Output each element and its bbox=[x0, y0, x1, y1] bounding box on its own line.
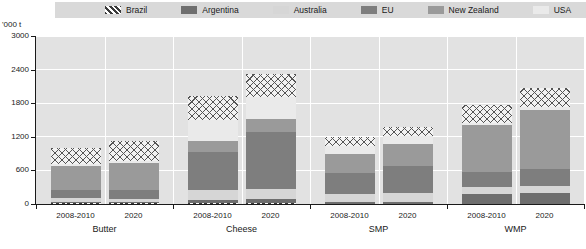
legend-item-new-zealand: New Zealand bbox=[428, 6, 499, 15]
group-divider bbox=[447, 36, 448, 204]
x-axis-category-label: 2008-2010 bbox=[183, 211, 243, 220]
bar-segment-new-zealand bbox=[520, 110, 570, 169]
bar-gap-gridline bbox=[242, 36, 243, 204]
bar-segment-new-zealand bbox=[109, 163, 159, 190]
chart-legend: Brazil Argentina Australia EU New Zealan… bbox=[55, 2, 586, 18]
bar-cheese-2020[interactable] bbox=[246, 36, 296, 204]
bar-segment-usa bbox=[462, 123, 512, 125]
y-axis-tick bbox=[31, 36, 35, 37]
group-divider bbox=[173, 36, 174, 204]
australia-swatch-icon bbox=[273, 6, 289, 14]
legend-item-eu: EU bbox=[361, 6, 394, 15]
bar-segment-new-zealand bbox=[51, 166, 101, 190]
bar-smp-2008-2010[interactable] bbox=[325, 36, 375, 204]
y-axis-tick bbox=[31, 170, 35, 171]
bar-segment-rest-of-world bbox=[520, 88, 570, 107]
bar-segment-argentina bbox=[520, 193, 570, 204]
bar-wmp-2008-2010[interactable] bbox=[462, 36, 512, 204]
bar-segment-rest-of-world bbox=[51, 148, 101, 164]
argentina-swatch-icon bbox=[181, 6, 197, 14]
x-axis-group-tick bbox=[36, 204, 37, 209]
legend-label-brazil: Brazil bbox=[126, 6, 147, 15]
legend-label-australia: Australia bbox=[294, 6, 327, 15]
bar-segment-usa bbox=[109, 161, 159, 163]
legend-item-argentina: Argentina bbox=[181, 6, 238, 15]
bar-gap-gridline bbox=[516, 36, 517, 204]
bar-segment-new-zealand bbox=[246, 119, 296, 132]
new-zealand-swatch-icon bbox=[428, 6, 444, 14]
x-axis-category-label: 2020 bbox=[378, 211, 438, 220]
bar-segment-usa bbox=[520, 107, 570, 110]
y-axis-tick bbox=[31, 137, 35, 138]
legend-label-usa: USA bbox=[554, 6, 571, 15]
bar-segment-eu bbox=[51, 190, 101, 198]
bar-segment-usa bbox=[383, 136, 433, 144]
y-axis-label: 2400 bbox=[0, 65, 29, 74]
bar-segment-rest-of-world bbox=[188, 96, 238, 120]
bar-segment-australia bbox=[520, 186, 570, 193]
x-axis-group-label: SMP bbox=[339, 224, 419, 234]
bar-segment-eu bbox=[188, 152, 238, 190]
bar-segment-eu bbox=[520, 169, 570, 186]
bar-segment-australia bbox=[188, 190, 238, 200]
bar-segment-eu bbox=[383, 166, 433, 193]
bar-segment-rest-of-world bbox=[383, 127, 433, 136]
bar-segment-australia bbox=[109, 199, 159, 202]
x-axis-category-label: 2020 bbox=[241, 211, 301, 220]
bar-segment-argentina bbox=[462, 194, 512, 204]
bar-segment-australia bbox=[325, 194, 375, 202]
bar-segment-eu bbox=[462, 172, 512, 187]
chart-root: Brazil Argentina Australia EU New Zealan… bbox=[0, 0, 586, 249]
x-axis-group-tick bbox=[173, 204, 174, 209]
legend-item-usa: USA bbox=[533, 6, 571, 15]
bar-gap-gridline bbox=[105, 36, 106, 204]
bar-segment-australia bbox=[462, 187, 512, 194]
bar-segment-rest-of-world bbox=[246, 74, 296, 97]
y-axis-tick bbox=[31, 70, 35, 71]
x-axis-category-label: 2020 bbox=[104, 211, 164, 220]
bar-segment-australia bbox=[51, 198, 101, 201]
bar-segment-eu bbox=[246, 132, 296, 189]
legend-label-argentina: Argentina bbox=[202, 6, 238, 15]
bar-segment-new-zealand bbox=[462, 125, 512, 171]
eu-swatch-icon bbox=[361, 6, 377, 14]
bar-segment-usa bbox=[51, 164, 101, 166]
bar-segment-usa bbox=[325, 146, 375, 153]
bar-segment-usa bbox=[246, 97, 296, 119]
y-axis-label: 3000 bbox=[0, 31, 29, 40]
bar-segment-new-zealand bbox=[325, 154, 375, 173]
bar-wmp-2020[interactable] bbox=[520, 36, 570, 204]
bar-segment-rest-of-world bbox=[325, 137, 375, 147]
y-axis-unit-label: '000 t bbox=[2, 20, 21, 29]
y-axis-label: 0 bbox=[0, 199, 29, 208]
bar-segment-rest-of-world bbox=[109, 141, 159, 161]
legend-item-australia: Australia bbox=[273, 6, 327, 15]
bar-segment-argentina bbox=[246, 199, 296, 202]
x-axis-category-label: 2008-2010 bbox=[46, 211, 106, 220]
group-divider bbox=[310, 36, 311, 204]
y-axis-label: 1200 bbox=[0, 132, 29, 141]
x-axis-group-label: Butter bbox=[65, 224, 145, 234]
x-axis-group-label: Cheese bbox=[202, 224, 282, 234]
y-axis-label: 1800 bbox=[0, 98, 29, 107]
bar-cheese-2008-2010[interactable] bbox=[188, 36, 238, 204]
legend-item-brazil: Brazil bbox=[105, 6, 147, 15]
x-axis-category-label: 2020 bbox=[515, 211, 575, 220]
bar-butter-2020[interactable] bbox=[109, 36, 159, 204]
bar-smp-2020[interactable] bbox=[383, 36, 433, 204]
x-axis-category-label: 2008-2010 bbox=[320, 211, 380, 220]
x-axis-category-label: 2008-2010 bbox=[457, 211, 517, 220]
bar-segment-eu bbox=[109, 190, 159, 199]
bar-segment-australia bbox=[246, 189, 296, 200]
bar-gap-gridline bbox=[379, 36, 380, 204]
x-axis-group-tick bbox=[310, 204, 311, 209]
brazil-swatch-icon bbox=[105, 6, 121, 14]
bar-butter-2008-2010[interactable] bbox=[51, 36, 101, 204]
usa-swatch-icon bbox=[533, 6, 549, 14]
bar-segment-rest-of-world bbox=[462, 105, 512, 123]
y-axis-tick bbox=[31, 204, 35, 205]
bar-segment-australia bbox=[383, 193, 433, 202]
legend-label-new-zealand: New Zealand bbox=[449, 6, 499, 15]
y-axis-label: 600 bbox=[0, 165, 29, 174]
bar-segment-argentina bbox=[188, 200, 238, 203]
